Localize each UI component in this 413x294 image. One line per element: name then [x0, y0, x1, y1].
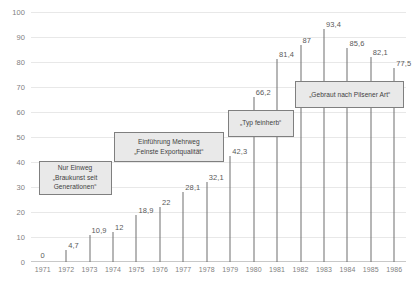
x-axis-tick-label: 1971 — [35, 266, 51, 273]
x-axis-tick-label: 1976 — [152, 266, 168, 273]
data-value-label: 81,4 — [279, 50, 294, 59]
data-value-label: 32,1 — [209, 173, 224, 182]
annotation-line: „Feinste Exportqualität“ — [134, 147, 203, 157]
data-bar — [183, 192, 184, 262]
y-axis-tick-label: 80 — [16, 58, 25, 67]
annotation-callout-gebraut-pilsener: „Gebraut nach Pilsener Art“ — [295, 81, 404, 109]
data-value-label: 93,4 — [326, 20, 341, 29]
gridline — [31, 112, 406, 113]
annotation-callout-einfuehrung-mehrweg: Einführung Mehrweg„Feinste Exportqualitä… — [114, 132, 225, 162]
y-axis-tick-label: 50 — [16, 133, 25, 142]
x-axis-tick-label: 1974 — [105, 266, 121, 273]
gridline — [31, 212, 406, 213]
annotation-line: Nur Einweg — [53, 163, 98, 173]
x-axis-tick-label: 1973 — [82, 266, 98, 273]
y-axis-tick-label: 60 — [16, 108, 25, 117]
y-axis-tick-label: 70 — [16, 83, 25, 92]
data-bar — [136, 215, 137, 262]
data-value-label: 10,9 — [92, 226, 107, 235]
data-bar — [66, 250, 67, 262]
y-axis-tick-label: 20 — [16, 208, 25, 217]
annotation-line: „Gebraut nach Pilsener Art“ — [309, 90, 390, 100]
x-axis-tick-label: 1986 — [386, 266, 402, 273]
x-axis-tick-label: 1984 — [339, 266, 355, 273]
data-value-label: 0 — [41, 251, 45, 260]
annotation-line: „Typ feinherb“ — [240, 118, 281, 128]
annotation-line: Generationen“ — [53, 182, 98, 192]
annotation-line: „Braukunst seit — [53, 173, 98, 183]
y-axis-tick-label: 90 — [16, 33, 25, 42]
data-bar — [300, 45, 301, 263]
data-bar — [277, 59, 278, 263]
data-value-label: 85,6 — [349, 39, 364, 48]
data-bar — [230, 156, 231, 262]
data-bar — [323, 29, 324, 263]
annotation-line: Einführung Mehrweg — [134, 137, 203, 147]
x-axis-tick-label: 1977 — [175, 266, 191, 273]
y-axis-tick-label: 100 — [12, 8, 25, 17]
x-axis-tick-label: 1983 — [316, 266, 332, 273]
x-axis-tick-label: 1975 — [128, 266, 144, 273]
gridline — [31, 37, 406, 38]
plot-area: 0102030405060708090100019714,7197210,919… — [31, 12, 406, 262]
data-value-label: 4,7 — [68, 241, 79, 250]
gridline — [31, 12, 406, 13]
x-axis-tick-label: 1985 — [363, 266, 379, 273]
y-axis-tick-label: 0 — [21, 258, 25, 267]
y-axis-tick-label: 30 — [16, 183, 25, 192]
y-axis-tick-label: 40 — [16, 158, 25, 167]
annotation-callout-typ-feinherb: „Typ feinherb“ — [228, 110, 294, 138]
x-axis-tick-label: 1978 — [199, 266, 215, 273]
data-bar — [159, 207, 160, 262]
data-value-label: 18,9 — [138, 206, 153, 215]
data-value-label: 77,5 — [396, 59, 411, 68]
x-axis-baseline — [31, 261, 406, 262]
x-axis-tick-label: 1980 — [246, 266, 262, 273]
beer-export-line-chart: 0102030405060708090100019714,7197210,919… — [0, 0, 413, 294]
gridline — [31, 237, 406, 238]
data-value-label: 66,2 — [256, 88, 271, 97]
annotation-callout-nur-einweg: Nur Einweg„Braukunst seitGenerationen“ — [39, 161, 112, 195]
gridline — [31, 62, 406, 63]
data-value-label: 82,1 — [373, 48, 388, 57]
x-axis-tick-label: 1979 — [222, 266, 238, 273]
x-axis-tick-label: 1972 — [58, 266, 74, 273]
data-value-label: 28,1 — [185, 183, 200, 192]
data-bar — [113, 232, 114, 262]
data-value-label: 87 — [303, 36, 312, 45]
data-value-label: 12 — [115, 223, 124, 232]
data-bar — [206, 182, 207, 262]
data-value-label: 22 — [162, 198, 171, 207]
x-axis-tick-label: 1982 — [293, 266, 309, 273]
x-axis-tick-label: 1981 — [269, 266, 285, 273]
y-axis-tick-label: 10 — [16, 233, 25, 242]
data-bar — [89, 235, 90, 262]
data-value-label: 42,3 — [232, 147, 247, 156]
